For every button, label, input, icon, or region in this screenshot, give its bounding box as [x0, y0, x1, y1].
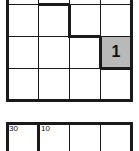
- grid-cell[interactable]: [8, 37, 38, 68]
- grid-cell[interactable]: 30: [8, 124, 38, 151]
- grid-cell[interactable]: [101, 69, 131, 100]
- grid-cell[interactable]: [101, 124, 131, 151]
- grid-cell[interactable]: [101, 5, 131, 36]
- grid-border-left: [6, 0, 9, 102]
- cage-boundary: [68, 4, 71, 38]
- grid-line: [69, 122, 70, 151]
- grid-cell[interactable]: [70, 5, 100, 36]
- cage-sum-label: 30: [9, 125, 18, 133]
- grid-cell[interactable]: [70, 69, 100, 100]
- grid-cell[interactable]: [70, 37, 100, 68]
- grid-cell[interactable]: [8, 69, 38, 100]
- cage-boundary: [99, 36, 102, 69]
- puzzle-grid-top: 1: [0, 0, 139, 102]
- grid-border-right: [130, 122, 133, 151]
- grid-line: [100, 122, 101, 151]
- grid-border-right: [130, 0, 133, 102]
- grid-line: [38, 0, 39, 100]
- given-value: 1: [101, 43, 131, 61]
- cage-boundary: [37, 122, 40, 151]
- given-cell[interactable]: 1: [101, 37, 131, 68]
- grid-cell[interactable]: 10: [40, 124, 69, 151]
- cage-boundary: [38, 3, 70, 6]
- grid-cell[interactable]: [39, 69, 69, 100]
- cage-boundary: [100, 67, 132, 70]
- grid-cell[interactable]: [39, 5, 69, 36]
- grid-cell[interactable]: [39, 37, 69, 68]
- grid-border-left: [6, 122, 9, 151]
- cage-boundary: [69, 35, 101, 38]
- grid-cell[interactable]: [8, 5, 38, 36]
- puzzle-grid-bottom: 30 10: [0, 118, 139, 151]
- cage-sum-label: 10: [41, 125, 50, 133]
- grid-cell[interactable]: [70, 124, 100, 151]
